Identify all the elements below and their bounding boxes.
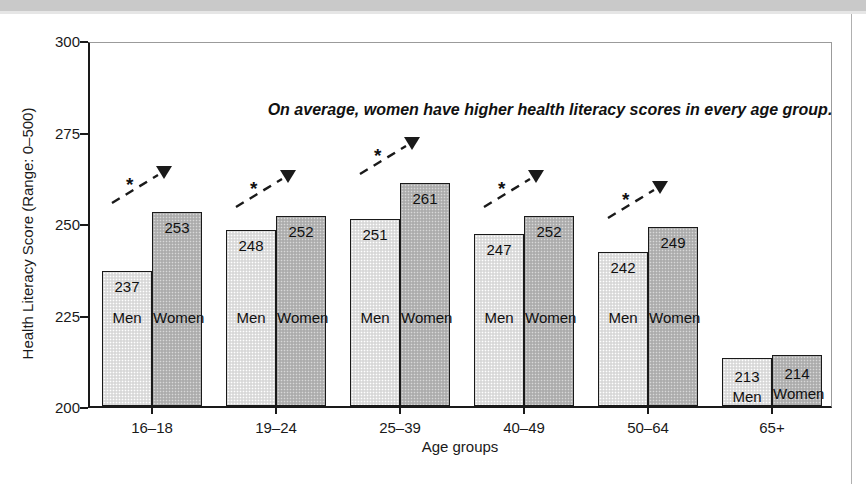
x-tick-mark — [523, 406, 525, 414]
bar-value-label: 242 — [599, 260, 647, 275]
bar-sex-label: Women — [773, 386, 821, 401]
down-triangle-icon — [404, 137, 420, 150]
bar-sex-label: Men — [351, 310, 399, 325]
significance-trend-line — [482, 169, 546, 211]
x-tick-label: 40–49 — [503, 419, 545, 436]
bar-16-18-men: 237Men — [102, 271, 152, 406]
page-scan-right-rule — [851, 14, 852, 484]
significance-asterisk: * — [622, 190, 629, 209]
x-tick-label: 25–39 — [379, 419, 421, 436]
bar-40-49-men: 247Men — [474, 234, 524, 406]
bar-19-24-men: 248Men — [226, 230, 276, 406]
bar-value-label: 252 — [525, 224, 573, 239]
y-tick-mark — [80, 133, 88, 135]
significance-annotation: * — [234, 169, 298, 211]
significance-annotation: * — [358, 136, 422, 178]
down-triangle-icon — [280, 170, 296, 183]
y-tick-label: 275 — [38, 126, 80, 141]
bar-value-label: 213 — [723, 369, 771, 384]
x-axis-label: Age groups — [88, 438, 832, 455]
x-tick-label: 65+ — [759, 419, 784, 436]
x-tick-label: 16–18 — [131, 419, 173, 436]
y-tick-label: 250 — [38, 217, 80, 232]
bar-value-label: 252 — [277, 224, 325, 239]
x-tick-mark — [151, 406, 153, 414]
bar-value-label: 237 — [103, 279, 151, 294]
bar-50-64-women: 249Women — [648, 227, 698, 406]
significance-trend-line — [606, 180, 670, 222]
significance-asterisk: * — [498, 179, 505, 198]
significance-asterisk: * — [374, 146, 381, 165]
y-tick-label: 225 — [38, 309, 80, 324]
bar-value-label: 248 — [227, 238, 275, 253]
y-axis: Health Literacy Score (Range: 0–500) 200… — [0, 14, 80, 484]
y-tick-mark — [80, 407, 88, 409]
bar-25-39-women: 261Women — [400, 183, 450, 406]
significance-annotation: * — [482, 169, 546, 211]
page-scan-top-band — [0, 0, 866, 11]
significance-asterisk: * — [250, 179, 257, 198]
bar-value-label: 261 — [401, 191, 449, 206]
x-tick-mark — [771, 406, 773, 414]
x-tick-mark — [399, 406, 401, 414]
significance-annotation: * — [110, 165, 174, 207]
y-tick-label: 200 — [38, 400, 80, 415]
x-tick-label: 50–64 — [627, 419, 669, 436]
significance-trend-line — [358, 136, 422, 178]
significance-trend-line — [234, 169, 298, 211]
bar-value-label: 249 — [649, 235, 697, 250]
down-triangle-icon — [156, 166, 172, 179]
y-tick-mark — [80, 224, 88, 226]
bar-sex-label: Women — [401, 310, 449, 325]
plot-area: On average, women have higher health lit… — [88, 42, 832, 408]
down-triangle-icon — [652, 181, 668, 194]
bar-value-label: 247 — [475, 242, 523, 257]
bar-50-64-men: 242Men — [598, 252, 648, 406]
bar-40-49-women: 252Women — [524, 216, 574, 406]
bar-19-24-women: 252Women — [276, 216, 326, 406]
bar-16-18-women: 253Women — [152, 212, 202, 406]
bar-25-39-men: 251Men — [350, 219, 400, 406]
bar-65plus-women: 214Women — [772, 355, 822, 406]
bar-sex-label: Women — [525, 310, 573, 325]
bar-value-label: 253 — [153, 220, 201, 235]
x-tick-mark — [647, 406, 649, 414]
chart-annotation-text: On average, women have higher health lit… — [178, 101, 866, 119]
y-axis-label: Health Literacy Score (Range: 0–500) — [19, 51, 36, 417]
bar-value-label: 251 — [351, 227, 399, 242]
bar-sex-label: Women — [277, 310, 325, 325]
bar-sex-label: Men — [103, 310, 151, 325]
significance-annotation: * — [606, 180, 670, 222]
bar-sex-label: Men — [227, 310, 275, 325]
y-tick-mark — [80, 316, 88, 318]
bar-sex-label: Women — [649, 310, 697, 325]
x-tick-mark — [275, 406, 277, 414]
bar-sex-label: Men — [475, 310, 523, 325]
bar-sex-label: Women — [153, 310, 201, 325]
bar-chart-figure: Health Literacy Score (Range: 0–500) 200… — [0, 14, 851, 484]
bar-value-label: 214 — [773, 366, 821, 381]
bar-65plus-men: 213Men — [722, 358, 772, 406]
y-tick-label: 300 — [38, 34, 80, 49]
bar-sex-label: Men — [723, 389, 771, 404]
significance-asterisk: * — [126, 175, 133, 194]
y-tick-mark — [80, 41, 88, 43]
bar-sex-label: Men — [599, 310, 647, 325]
down-triangle-icon — [528, 170, 544, 183]
x-tick-label: 19–24 — [255, 419, 297, 436]
significance-trend-line — [110, 165, 174, 207]
